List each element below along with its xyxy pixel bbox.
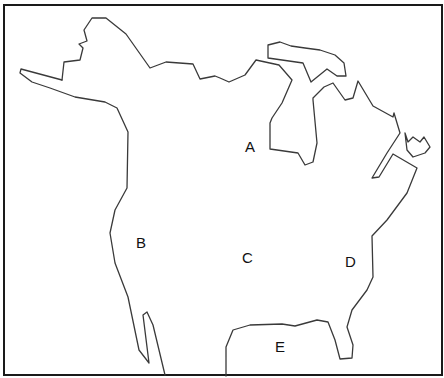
region-label-d: D [345, 254, 356, 269]
region-label-a: A [245, 139, 255, 154]
north-america-outline-map [0, 0, 444, 378]
north-coast-outline [20, 69, 165, 375]
alaska-arctic-coast [62, 18, 417, 376]
region-label-e: E [275, 339, 285, 354]
region-label-c: C [242, 250, 253, 265]
region-label-b: B [136, 235, 146, 250]
east-island-outline [405, 133, 430, 157]
arctic-island-outline [268, 42, 346, 82]
